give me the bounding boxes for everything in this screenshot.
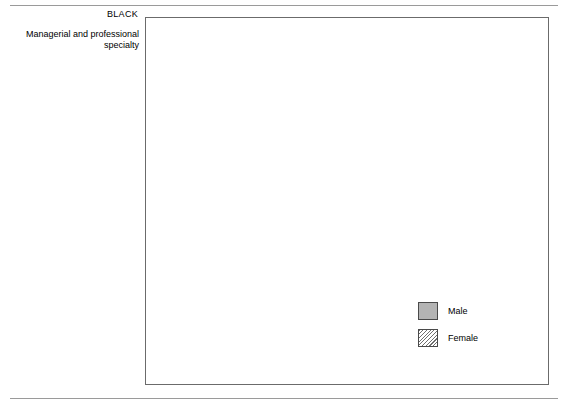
group-heading-black: BLACK bbox=[0, 9, 138, 19]
legend-label-male: Male bbox=[448, 306, 468, 316]
outer-rule-bottom bbox=[10, 398, 558, 399]
legend-swatch-female-icon bbox=[418, 329, 438, 347]
outer-rule-top bbox=[10, 5, 558, 6]
category-label: Managerial and professional specialty bbox=[0, 29, 139, 50]
legend-label-female: Female bbox=[448, 333, 478, 343]
chart-canvas: BLACKManagerial and professional special… bbox=[0, 0, 568, 408]
plot-frame bbox=[145, 17, 549, 385]
legend-swatch-male-icon bbox=[418, 302, 438, 320]
